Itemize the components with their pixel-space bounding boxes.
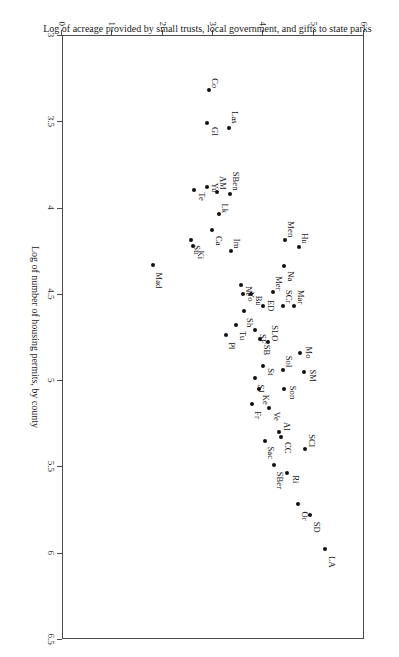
data-point-label: Gl	[210, 127, 219, 136]
data-point-label: SB	[263, 345, 272, 356]
x-axis-tick	[57, 208, 62, 209]
data-point-label: Te	[197, 192, 206, 201]
data-point-label: Mer	[274, 276, 283, 290]
data-point	[279, 435, 283, 439]
data-point-label: SCr	[285, 290, 294, 304]
data-point	[282, 264, 286, 268]
x-axis-tick	[57, 639, 62, 640]
data-point	[228, 192, 232, 196]
data-point-label: Or	[301, 511, 310, 520]
x-axis-tick	[57, 466, 62, 467]
data-point-label: SD	[313, 522, 322, 533]
data-point	[253, 328, 257, 332]
data-point-label: SM	[308, 370, 317, 383]
data-point	[189, 238, 193, 242]
data-point-label: Ri	[292, 475, 301, 483]
data-point-label: Sac	[266, 447, 275, 460]
x-axis-tick	[57, 553, 62, 554]
data-point-label: Na	[287, 271, 296, 281]
data-point	[272, 463, 276, 467]
x-axis-tick-label: 4	[46, 205, 56, 210]
data-point-label: SCl	[307, 434, 316, 447]
x-axis-tick-label: 4.5	[46, 288, 56, 299]
data-point	[253, 376, 257, 380]
x-axis-tick-label: 6.5	[46, 633, 56, 644]
data-point	[281, 368, 285, 372]
data-point	[263, 439, 267, 443]
data-point	[292, 304, 296, 308]
data-point-label: Sol	[285, 356, 294, 368]
data-point-label: Ve	[272, 412, 281, 421]
x-axis-tick-label: 5.5	[46, 461, 56, 472]
data-point	[297, 245, 301, 249]
data-point	[282, 387, 286, 391]
data-point-label: ED	[266, 300, 275, 312]
data-point	[229, 249, 233, 253]
data-point-label: Ne	[244, 286, 253, 296]
data-point-label: SJ	[257, 384, 266, 392]
data-point-label: Ke	[261, 395, 270, 405]
data-point	[207, 88, 211, 92]
data-point	[277, 430, 281, 434]
data-point-label: Fr	[254, 411, 263, 419]
data-point	[205, 185, 209, 189]
data-point	[298, 351, 302, 355]
data-point	[285, 471, 289, 475]
data-point	[267, 406, 271, 410]
data-point	[296, 502, 300, 506]
x-axis-title: Log of number of housing permits, by cou…	[30, 35, 41, 639]
data-point-label: Pl	[228, 342, 237, 349]
data-point-label: Su	[193, 245, 202, 254]
data-point	[205, 121, 209, 125]
data-point	[211, 228, 215, 232]
data-point	[302, 370, 306, 374]
data-point	[227, 126, 231, 130]
data-point-label: CC	[284, 442, 293, 454]
data-point-label: Las	[230, 111, 239, 124]
data-point-label: Lk	[221, 203, 230, 213]
data-point-label: Mar	[296, 290, 305, 304]
data-point-label: Hu	[300, 233, 309, 244]
data-point-label: SLO	[271, 325, 280, 341]
x-axis-tick	[57, 35, 62, 36]
data-point-label: LA	[327, 556, 336, 568]
data-point-label: SF	[258, 334, 267, 344]
data-point-label: Sh	[246, 318, 255, 327]
data-point-label: Al	[282, 422, 291, 431]
data-point-label: Yu	[210, 183, 219, 193]
x-axis-tick	[57, 294, 62, 295]
x-axis-tick-label: 3.5	[46, 116, 56, 127]
data-point	[281, 304, 285, 308]
data-point	[261, 364, 265, 368]
data-point	[303, 447, 307, 451]
data-point-label: Mad	[155, 273, 164, 289]
data-point	[239, 283, 243, 287]
data-point-label: St	[267, 368, 276, 375]
data-point	[283, 238, 287, 242]
data-point-label: Tu	[238, 331, 247, 340]
data-point	[250, 402, 254, 406]
data-point-label: Ca	[215, 236, 224, 246]
x-axis-tick-label: 6	[46, 550, 56, 555]
data-point	[242, 309, 246, 313]
data-point	[192, 188, 196, 192]
scatter-figure: 33.544.555.566.50123456 Log of number of…	[0, 0, 399, 657]
data-point-label: SBer	[276, 472, 285, 489]
x-axis-tick	[57, 121, 62, 122]
data-point-label: SBen	[231, 172, 240, 191]
x-axis-tick	[57, 380, 62, 381]
data-point-label: Son	[288, 386, 297, 400]
data-point-label: Men	[286, 221, 295, 237]
plot-area	[62, 35, 364, 639]
x-axis-tick-label: 5	[46, 378, 56, 383]
data-point-label: Mo	[305, 347, 314, 359]
data-point-label: Co	[211, 78, 220, 88]
data-point	[151, 263, 155, 267]
data-point-label: Im	[232, 239, 241, 249]
data-point	[323, 547, 327, 551]
data-point	[234, 323, 238, 327]
y-axis-title: Log of acreage provided by small trusts,…	[43, 23, 373, 34]
data-point	[224, 333, 228, 337]
